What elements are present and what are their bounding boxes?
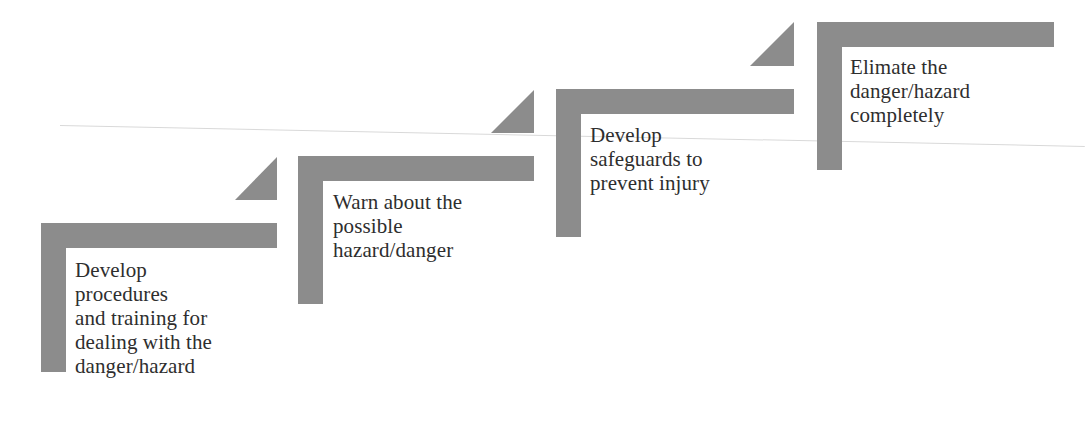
step-3-arrow-triangle xyxy=(750,22,794,66)
step-2-vertical-bar xyxy=(298,156,323,304)
step-4-horizontal-bar xyxy=(817,22,1054,47)
step-3-label: Develop safeguards to prevent injury xyxy=(590,123,710,195)
step-2-horizontal-bar xyxy=(298,156,534,181)
step-4-label: Elimate the danger/hazard completely xyxy=(850,55,970,127)
step-2-label: Warn about the possible hazard/danger xyxy=(333,190,462,262)
step-1-vertical-bar xyxy=(41,223,66,372)
step-4-vertical-bar xyxy=(817,22,842,170)
step-2-arrow-triangle xyxy=(491,90,534,133)
step-1-horizontal-bar xyxy=(41,223,277,248)
step-1-label: Develop procedures and training for deal… xyxy=(75,258,212,378)
step-3-horizontal-bar xyxy=(556,89,794,114)
step-3-vertical-bar xyxy=(556,89,581,237)
step-1-arrow-triangle xyxy=(235,157,277,200)
